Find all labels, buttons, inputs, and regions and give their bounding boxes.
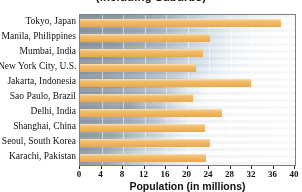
axis-tick-label: 16 [161,169,170,179]
axis-tick-label: 4 [98,169,103,179]
axis-tick-label: 0 [77,169,82,179]
bar [80,79,251,87]
chart-title: (including Suburbs) [0,0,302,3]
category-label: Seoul, South Korea [0,137,76,146]
bar [80,154,206,162]
bar [80,49,203,57]
axis-tick-label: 40 [290,169,299,179]
axis-tick-label: 36 [268,169,277,179]
x-axis-title: Population (in millions) [79,180,296,192]
bar [80,139,210,147]
bar [80,19,281,27]
plot-area [79,14,296,166]
axis-tick-label: 12 [139,169,148,179]
axis-tick-label: 20 [182,169,191,179]
gridline [231,15,232,165]
category-label: Tokyo, Japan [0,17,76,26]
category-label: Mumbai, India [0,47,76,56]
axis-tick-label: 28 [225,169,234,179]
category-label: Shanghai, China [0,122,76,131]
category-label: New York City, U.S. [0,62,76,71]
gridline [274,15,275,165]
category-label: Delhi, India [0,107,76,116]
gridline [295,15,296,165]
bar [80,34,210,42]
bar [80,94,193,102]
bar [80,64,196,72]
population-bar-chart: (including Suburbs) Tokyo, JapanManila, … [0,0,302,192]
axis-tick-label: 8 [120,169,125,179]
gridline [252,15,253,165]
bar [80,109,222,117]
bar [80,124,205,132]
category-label: Karachi, Pakistan [0,152,76,161]
axis-tick-label: 32 [247,169,256,179]
category-label: Sao Paulo, Brazil [0,92,76,101]
category-axis-labels: Tokyo, JapanManila, PhilippinesMumbai, I… [0,14,78,166]
category-label: Jakarta, Indonesia [0,77,76,86]
axis-tick-label: 24 [204,169,213,179]
category-label: Manila, Philippines [0,32,76,41]
